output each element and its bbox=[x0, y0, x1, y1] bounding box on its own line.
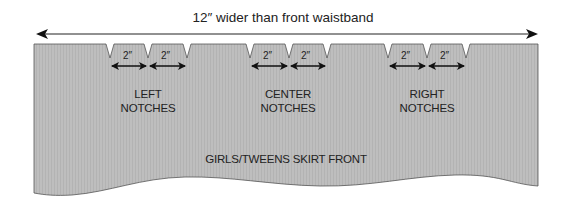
notch-spacing-label: 2″ bbox=[123, 50, 132, 61]
left-notches-line1: LEFT bbox=[108, 87, 188, 101]
notch-spacing-label: 2″ bbox=[161, 50, 170, 61]
notch-spacing-label: 2″ bbox=[263, 50, 272, 61]
notch-spacing-label: 2″ bbox=[401, 50, 410, 61]
right-notches-line1: RIGHT bbox=[387, 87, 467, 101]
notch-spacing-label: 2″ bbox=[440, 50, 449, 61]
waistband-width-label: 12″ wider than front waistband bbox=[0, 10, 566, 25]
right-notches-label: RIGHT NOTCHES bbox=[387, 87, 467, 115]
left-notches-label: LEFT NOTCHES bbox=[108, 87, 188, 115]
center-notches-label: CENTER NOTCHES bbox=[248, 87, 328, 115]
center-notches-line2: NOTCHES bbox=[248, 101, 328, 115]
left-notches-line2: NOTCHES bbox=[108, 101, 188, 115]
right-notches-line2: NOTCHES bbox=[387, 101, 467, 115]
center-notches-line1: CENTER bbox=[248, 87, 328, 101]
notch-spacing-label: 2″ bbox=[301, 50, 310, 61]
pattern-piece-label: GIRLS/TWEENS SKIRT FRONT bbox=[186, 152, 386, 166]
width-dimension-arrow bbox=[36, 29, 538, 39]
